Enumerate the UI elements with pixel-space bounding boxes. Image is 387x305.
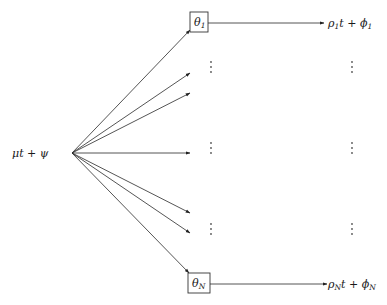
arrow-branch-6 bbox=[72, 153, 190, 233]
output-n-label: ρNt + ϕN bbox=[327, 278, 376, 292]
theta-n-subscript: N bbox=[198, 282, 206, 291]
ellipsis-node-column-bottom bbox=[210, 223, 212, 235]
node-theta-1: θ1 bbox=[190, 12, 208, 32]
arrow-branch-3 bbox=[72, 93, 190, 153]
output-1-label: ρ1t + ϕ1 bbox=[327, 17, 372, 31]
arrow-to-theta-n bbox=[72, 153, 189, 273]
fanout-arrows bbox=[72, 30, 190, 273]
output-1-t-plus: t + bbox=[339, 17, 360, 30]
node-theta-n: θN bbox=[188, 273, 210, 293]
arrow-branch-2 bbox=[72, 73, 190, 153]
theta-1-subscript: 1 bbox=[201, 21, 206, 30]
arrow-branch-5 bbox=[72, 153, 190, 213]
ellipsis-output-column-middle bbox=[351, 142, 353, 154]
ellipsis-node-column-middle bbox=[210, 142, 212, 154]
source-label: μt + ψ bbox=[12, 147, 49, 160]
arrow-to-theta-1 bbox=[72, 30, 190, 153]
ellipsis-output-column-bottom bbox=[351, 223, 353, 235]
ellipsis-output-column-top bbox=[351, 61, 353, 73]
ellipsis-node-column-top bbox=[210, 61, 212, 73]
output-1-phi-sub: 1 bbox=[367, 22, 372, 31]
output-n-t-plus: t + bbox=[341, 278, 362, 291]
signal-fanout-diagram: μt + ψ θ1 θN ρ1t + ϕ1 ρNt + ϕN bbox=[0, 0, 387, 305]
output-n-phi-sub: N bbox=[368, 283, 376, 292]
